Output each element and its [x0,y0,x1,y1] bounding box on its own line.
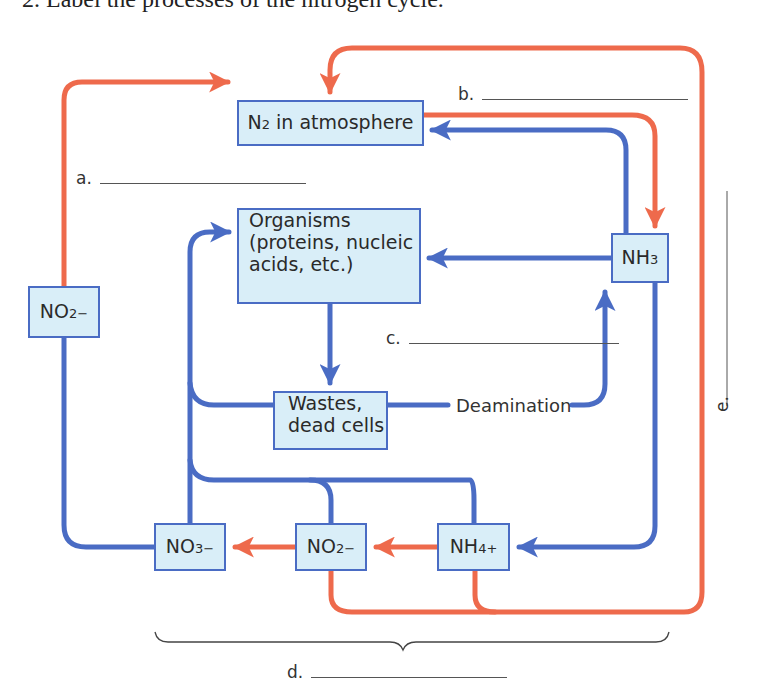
blank-d-letter: d. [287,662,303,682]
wastes-line1: Wastes, [288,393,362,415]
n2-suffix: in atmosphere [270,112,413,134]
nh3-formula: NH [622,247,651,269]
arrow-no2-left-to-no3 [64,338,154,547]
wastes-line2: dead cells [288,415,384,437]
organisms-line2: (proteins, nucleic [249,232,413,254]
blank-c-line[interactable] [409,342,619,344]
organisms-line3: acids, etc.) [249,254,353,276]
blank-b-letter: b. [458,84,474,104]
organisms-line1: Organisms [249,210,351,232]
arrow-no2-to-loop [331,571,495,612]
nh4-formula: NH [450,536,479,558]
node-n2-atmosphere: N2 in atmosphere [237,100,424,146]
blank-d[interactable]: d. [287,662,507,682]
node-nh4-bottom: NH4+ [437,523,510,571]
no3-formula: NO [166,536,195,558]
node-organisms: Organisms (proteins, nucleic acids, etc.… [237,208,421,304]
node-no2-left: NO2− [28,286,100,338]
blank-d-line[interactable] [311,676,507,678]
node-no3-bottom: NO3− [154,523,226,571]
blank-a[interactable]: a. [76,168,306,188]
label-deamination: Deamination [456,395,571,416]
blank-e[interactable]: e. [712,396,732,412]
no2-bottom-formula: NO [307,536,336,558]
arrow-deamination-to-nh3 [572,292,605,405]
n2-formula: N [248,112,262,134]
brace-d [155,632,669,650]
node-wastes: Wastes, dead cells [273,391,388,450]
blank-e-letter: e. [712,396,732,412]
blank-a-letter: a. [76,168,92,188]
no2-left-formula: NO [40,301,69,323]
node-no2-bottom: NO2− [295,523,367,571]
blank-b-line[interactable] [482,98,688,100]
arrow-nh3-to-n2 [432,130,626,233]
blank-b[interactable]: b. [458,84,688,104]
blank-c[interactable]: c. [386,328,619,348]
blank-c-letter: c. [386,328,401,348]
blank-a-line[interactable] [100,182,306,184]
node-nh3: NH3 [611,233,669,283]
